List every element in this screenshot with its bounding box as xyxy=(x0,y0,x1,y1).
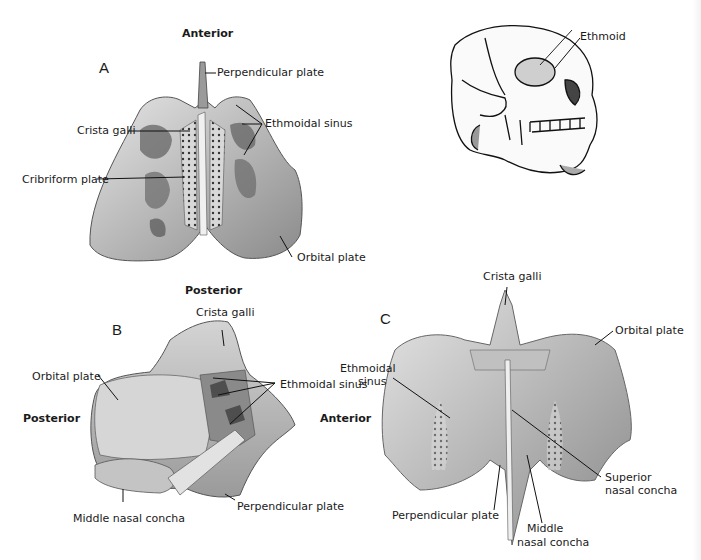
panel-a-letter: A xyxy=(99,59,109,76)
panel-b-crista-galli-label: Crista galli xyxy=(196,306,254,319)
panel-a-bone xyxy=(90,62,302,261)
panel-c-middle-nasal-concha-line1: Middle xyxy=(527,522,563,535)
panel-b-ethmoidal-sinus-label: Ethmoidal sinus xyxy=(280,378,367,391)
panel-a-perpendicular-plate-label: Perpendicular plate xyxy=(217,66,324,79)
panel-c-middle-nasal-concha-line2: nasal concha xyxy=(517,536,589,549)
panel-c-superior-nasal-concha-line2: nasal concha xyxy=(605,484,677,497)
panel-c-perpendicular-plate-label: Perpendicular plate xyxy=(392,509,499,522)
panel-c-crista-galli-label: Crista galli xyxy=(483,270,541,283)
panel-a-orbital-plate-label: Orbital plate xyxy=(297,251,366,264)
skull-ethmoid-label: Ethmoid xyxy=(580,30,626,43)
panel-b-letter: B xyxy=(112,321,122,338)
panel-c-ethmoidal-sinus-label-line2: sinus xyxy=(358,375,386,388)
ethmoid-illustrations xyxy=(0,0,701,560)
panel-c-anterior-label: Anterior xyxy=(320,412,371,425)
panel-c-orbital-plate-label: Orbital plate xyxy=(615,324,684,337)
skull-drawing xyxy=(451,26,597,175)
panel-b-orbital-plate-label: Orbital plate xyxy=(32,370,101,383)
panel-c-bone xyxy=(382,290,631,545)
panel-a-ethmoidal-sinus-label: Ethmoidal sinus xyxy=(265,117,352,130)
panel-a-crista-galli-label: Crista galli xyxy=(77,124,135,137)
panel-b-bone xyxy=(91,321,295,497)
page-edge-shadow xyxy=(693,0,701,560)
panel-c-superior-nasal-concha-line1: Superior xyxy=(605,471,652,484)
panel-a-anterior-label: Anterior xyxy=(182,27,233,40)
panel-a-posterior-label: Posterior xyxy=(185,284,242,297)
panel-a-cribriform-plate-label: Cribriform plate xyxy=(22,173,109,186)
panel-c-letter: C xyxy=(380,310,391,327)
panel-b-middle-nasal-concha-label: Middle nasal concha xyxy=(73,512,185,525)
panel-b-posterior-label: Posterior xyxy=(23,412,80,425)
panel-c-ethmoidal-sinus-label-line1: Ethmoidal xyxy=(340,362,396,375)
panel-b-perpendicular-plate-label: Perpendicular plate xyxy=(237,500,344,513)
